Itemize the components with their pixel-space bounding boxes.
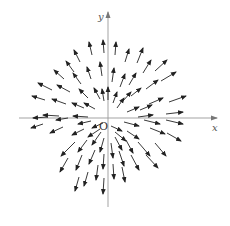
vector-arrow — [126, 140, 133, 153]
vector-arrow — [169, 96, 186, 102]
vector-arrow — [72, 129, 84, 135]
vector-arrow — [72, 103, 84, 108]
vector-arrow — [122, 167, 125, 182]
vector-arrow — [138, 142, 150, 156]
vector-arrow — [131, 88, 141, 96]
vector-arrow — [96, 165, 98, 180]
vector-arrow — [166, 112, 183, 114]
vector-arrow — [127, 107, 139, 112]
axes — [19, 12, 217, 207]
vector-arrow — [74, 50, 80, 62]
vector-arrow — [79, 89, 88, 98]
vector-arrow — [78, 140, 87, 152]
vector-arrow — [115, 42, 116, 55]
vector-arrow — [111, 143, 113, 158]
vector-arrow — [102, 89, 104, 101]
vector-field-diagram: x y O — [0, 0, 230, 226]
vector-arrow — [100, 138, 104, 152]
vector-arrow — [113, 164, 114, 179]
vector-arrows — [31, 40, 186, 194]
vector-arrow — [60, 158, 68, 172]
vector-arrow — [73, 116, 88, 117]
vector-arrow — [100, 62, 102, 76]
vector-arrow — [103, 178, 104, 194]
vector-arrow — [75, 177, 79, 191]
vector-arrow — [73, 73, 81, 84]
vector-arrow — [89, 150, 95, 164]
vector-arrow — [143, 60, 151, 73]
x-axis-label: x — [212, 122, 218, 133]
vector-arrow — [119, 151, 124, 166]
vector-arrow — [138, 115, 153, 117]
vector-arrow — [140, 105, 152, 110]
vector-arrow — [43, 115, 59, 116]
vector-arrow — [129, 73, 136, 85]
vector-arrow — [54, 70, 64, 79]
vector-arrow — [78, 121, 91, 124]
vector-arrow — [57, 85, 70, 92]
vector-arrow — [84, 103, 95, 109]
vector-arrow — [166, 120, 183, 124]
vector-arrow — [167, 133, 181, 141]
vector-arrow — [61, 142, 75, 156]
vector-arrow — [103, 40, 104, 53]
vector-arrow — [150, 128, 165, 134]
vector-arrow — [66, 61, 74, 72]
vector-arrow — [87, 67, 91, 79]
vector-arrow — [76, 155, 82, 170]
vector-arrow — [127, 131, 139, 139]
vector-arrow — [131, 155, 139, 170]
vector-arrow — [52, 99, 66, 104]
vector-arrow — [89, 42, 92, 55]
y-axis-label: y — [97, 11, 104, 22]
vector-arrow — [123, 92, 131, 101]
vector-arrow — [144, 120, 160, 124]
vector-arrow — [161, 72, 176, 81]
vector-arrow — [146, 80, 158, 89]
vector-arrow — [120, 74, 125, 87]
vector-arrow — [117, 98, 124, 108]
vector-arrow — [111, 126, 122, 131]
vector-arrow — [155, 60, 167, 71]
vector-arrow — [155, 143, 166, 156]
vector-arrow — [115, 137, 122, 150]
vector-arrow — [149, 98, 163, 104]
vector-arrow — [125, 49, 129, 62]
vector-arrow — [31, 124, 43, 128]
origin-label: O — [99, 120, 108, 133]
vector-arrow — [146, 155, 158, 168]
vector-arrow — [32, 96, 45, 100]
vector-arrow — [84, 172, 88, 186]
vector-arrow — [137, 48, 143, 63]
vector-arrow — [94, 88, 100, 99]
vector-arrow — [50, 127, 63, 133]
vector-arrow — [124, 122, 139, 126]
vector-arrow — [103, 154, 104, 169]
vector-arrow — [112, 68, 114, 82]
vector-arrow — [38, 83, 52, 90]
vector-arrow — [113, 92, 117, 103]
